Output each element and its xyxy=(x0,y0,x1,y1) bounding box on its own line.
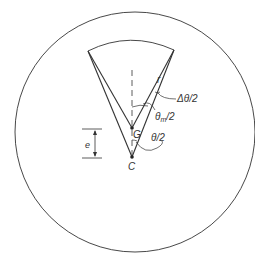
label-delta-theta-half: Δθ/2 xyxy=(176,93,198,104)
dim-arrow-up xyxy=(93,130,97,135)
sector-diagram: r Δθ/2 θm/2 θ/2 G C e xyxy=(0,0,255,266)
leader-delta-theta xyxy=(158,93,176,99)
label-c: C xyxy=(128,161,136,172)
dim-arrow-down xyxy=(93,152,97,157)
label-theta-m-half: θm/2 xyxy=(155,111,175,123)
angle-arc-theta xyxy=(132,140,137,141)
label-g: G xyxy=(133,129,141,140)
sector-side-left-inner xyxy=(88,51,132,128)
label-e: e xyxy=(85,140,90,150)
angle-arc-theta-m xyxy=(132,105,148,107)
label-theta-half: θ/2 xyxy=(151,132,165,143)
sector-arc xyxy=(88,40,174,51)
point-c xyxy=(130,155,134,159)
